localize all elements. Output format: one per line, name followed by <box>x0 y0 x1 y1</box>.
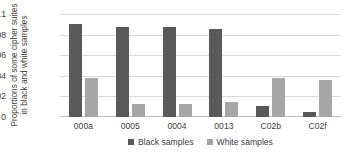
bar-000a-black[interactable] <box>69 24 82 117</box>
plot-area <box>60 14 341 117</box>
bar-0005-white[interactable] <box>132 104 145 117</box>
y-tick-label: 0 <box>0 112 6 122</box>
bar-group <box>154 14 201 117</box>
legend-swatch-icon <box>128 139 134 145</box>
legend-entry[interactable]: White samples <box>207 137 273 147</box>
legend-entry[interactable]: Black samples <box>128 137 193 147</box>
y-axis-title: Proportions of some cipher suites in bla… <box>2 0 38 130</box>
x-tick-label: 0013 <box>200 119 247 133</box>
bar-C02f-black[interactable] <box>303 112 316 117</box>
x-tick-label: C02b <box>247 119 294 133</box>
y-tick-label: 0.1 <box>0 9 6 19</box>
bar-group <box>247 14 294 117</box>
bar-0013-white[interactable] <box>225 102 238 117</box>
y-tick-label: 0.04 <box>0 71 6 81</box>
bar-group <box>107 14 154 117</box>
x-axis-tick-labels: 000a000500040013C02bC02f <box>60 119 341 133</box>
chart-legend: Black samplesWhite samples <box>60 135 341 149</box>
x-tick-label: 0005 <box>107 119 154 133</box>
bar-0005-black[interactable] <box>116 27 129 117</box>
x-tick-label: 000a <box>60 119 107 133</box>
y-tick-label: 0.08 <box>0 30 6 40</box>
bar-C02f-white[interactable] <box>319 80 332 117</box>
bar-group <box>200 14 247 117</box>
bar-C02b-black[interactable] <box>256 106 269 117</box>
x-tick-label: C02f <box>294 119 341 133</box>
bar-0004-black[interactable] <box>163 27 176 117</box>
bars-layer <box>60 14 341 117</box>
y-tick-label: 0.02 <box>0 91 6 101</box>
bar-0004-white[interactable] <box>179 104 192 117</box>
legend-swatch-icon <box>207 139 213 145</box>
bar-group <box>60 14 107 117</box>
bar-0013-black[interactable] <box>209 29 222 117</box>
bar-000a-white[interactable] <box>85 78 98 117</box>
bar-chart: Proportions of some cipher suites in bla… <box>0 0 349 158</box>
y-tick-label: 0.06 <box>0 50 6 60</box>
legend-label: Black samples <box>138 137 193 147</box>
legend-label: White samples <box>217 137 273 147</box>
x-tick-label: 0004 <box>154 119 201 133</box>
bar-C02b-white[interactable] <box>272 78 285 117</box>
bar-group <box>294 14 341 117</box>
